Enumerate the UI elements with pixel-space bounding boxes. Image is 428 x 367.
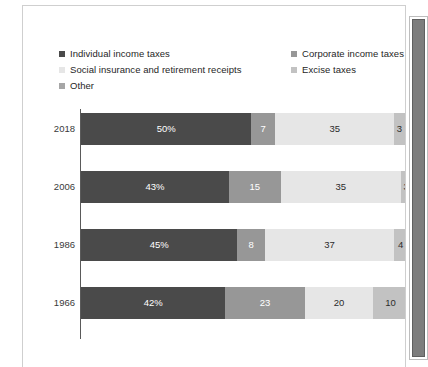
bar-segment: 45% [81, 229, 237, 261]
bar-segment-value: 45% [150, 240, 169, 250]
stacked-bar: 42%2320105 [81, 287, 406, 319]
vertical-scrollbar-thumb[interactable] [412, 19, 425, 357]
bar-segment-value: 35 [329, 124, 340, 134]
bar-segment-value: 8 [249, 240, 254, 250]
bar-segment-value: 3 [403, 182, 406, 192]
bar-segment: 35 [281, 171, 401, 203]
bar-segment: 10 [373, 287, 406, 319]
bar-segment: 15 [229, 171, 281, 203]
bar-segment-value: 37 [324, 240, 335, 250]
bar-segment-value: 23 [260, 298, 271, 308]
legend-column-left: Individual income taxesSocial insurance … [59, 46, 279, 94]
bar-segment: 20 [305, 287, 374, 319]
bar-segment-value: 3 [397, 124, 402, 134]
legend-swatch-icon [291, 51, 297, 57]
legend-swatch-icon [59, 51, 65, 57]
bar-segment: 42% [81, 287, 225, 319]
bar-segment-value: 42% [144, 298, 163, 308]
bar-row: 196642%2320105 [45, 287, 406, 319]
bar-segment: 37 [265, 229, 394, 261]
bar-row-year-label: 2018 [45, 113, 75, 145]
bar-segment-value: 35 [335, 182, 346, 192]
bar-row: 201850%73536 [45, 113, 406, 145]
legend-item-label: Excise taxes [302, 65, 356, 75]
bar-segment: 4 [394, 229, 406, 261]
bar-segment: 35 [275, 113, 394, 145]
legend-item: Excise taxes [291, 62, 406, 78]
bar-segment: 23 [225, 287, 304, 319]
bar-segment: 3 [394, 113, 404, 145]
bar-segment: 7 [251, 113, 275, 145]
vertical-scrollbar-track[interactable] [409, 16, 428, 360]
legend-item-label: Social insurance and retirement receipts [70, 65, 242, 75]
bar-segment: 3 [401, 171, 406, 203]
legend-item-label: Individual income taxes [70, 49, 170, 59]
bar-segment-value: 7 [261, 124, 266, 134]
legend-swatch-icon [291, 67, 297, 73]
bar-row: 200643%153534 [45, 171, 406, 203]
stacked-bar: 45%83745 [81, 229, 406, 261]
legend-swatch-icon [59, 83, 65, 89]
bar-segment-value: 20 [334, 298, 345, 308]
legend-item: Corporate income taxes [291, 46, 406, 62]
legend-item-label: Other [70, 81, 94, 91]
legend-item: Other [59, 78, 279, 94]
bar-row-year-label: 1986 [45, 229, 75, 261]
bar-segment: 8 [237, 229, 265, 261]
bar-segment-value: 43% [145, 182, 164, 192]
legend-item: Social insurance and retirement receipts [59, 62, 279, 78]
bar-segment-value: 15 [249, 182, 260, 192]
legend-item: Individual income taxes [59, 46, 279, 62]
bar-row-year-label: 1966 [45, 287, 75, 319]
stacked-bar: 50%73536 [81, 113, 406, 145]
bar-segment: 43% [81, 171, 229, 203]
bar-segment: 6 [405, 113, 406, 145]
legend-swatch-icon [59, 67, 65, 73]
bar-row-year-label: 2006 [45, 171, 75, 203]
bar-segment-value: 4 [398, 240, 403, 250]
stacked-bar-chart: 201850%73536200643%153534198645%83745196… [45, 109, 406, 344]
bar-segment: 50% [81, 113, 251, 145]
bar-segment-value: 10 [385, 298, 396, 308]
bar-segment-value: 50% [157, 124, 176, 134]
document-page: Individual income taxesSocial insurance … [22, 5, 406, 367]
stacked-bar: 43%153534 [81, 171, 406, 203]
legend-item-label: Corporate income taxes [302, 49, 404, 59]
bar-row: 198645%83745 [45, 229, 406, 261]
legend-column-right: Corporate income taxesExcise taxes [291, 46, 406, 78]
